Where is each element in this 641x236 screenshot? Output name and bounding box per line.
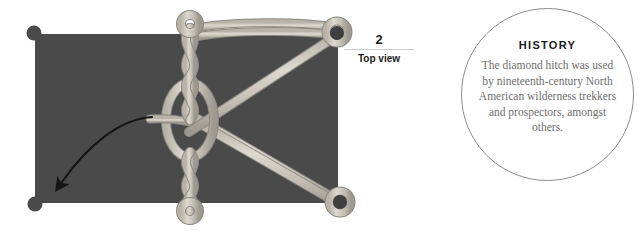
corner-dot-bottom-right bbox=[333, 195, 347, 209]
step-label-divider bbox=[344, 49, 414, 50]
step-label: 2 Top view bbox=[344, 32, 414, 65]
history-body: The diamond hitch was used by nineteenth… bbox=[479, 58, 617, 136]
step-number: 2 bbox=[344, 32, 414, 47]
rope-top-run bbox=[190, 23, 337, 38]
corner-dot-top-right bbox=[330, 26, 344, 40]
history-callout: HISTORY The diamond hitch was used by ni… bbox=[461, 8, 634, 181]
corner-dot-bottom-left bbox=[28, 197, 43, 212]
rope-braid-vertical bbox=[181, 15, 199, 220]
knot-instruction-page: 2 Top view HISTORY The diamond hitch was… bbox=[0, 0, 641, 236]
step-caption: Top view bbox=[344, 53, 414, 65]
history-title: HISTORY bbox=[519, 39, 576, 51]
corner-dot-top-left bbox=[27, 26, 42, 41]
